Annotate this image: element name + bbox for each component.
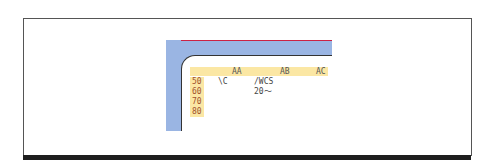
document-frame [23,18,472,156]
bottom-bar [23,155,471,160]
inner-edge-left [181,69,182,131]
cell-ab50[interactable]: /WCS [254,77,273,86]
frame-top-band [166,40,332,56]
inner-edge-top [195,55,332,56]
cell-ab60[interactable]: 20～ [254,87,272,96]
column-header-ac[interactable]: AC [316,67,326,76]
row-header-60[interactable]: 60 [192,87,202,96]
column-header-ab[interactable]: AB [280,67,290,76]
column-header-aa[interactable]: AA [232,67,242,76]
row-header-column: 50 60 70 80 [190,77,204,117]
frame-left-band [166,40,181,131]
row-header-50[interactable]: 50 [192,77,202,86]
cell-aa50[interactable]: \C [218,77,228,86]
column-header-row: AA AB AC [190,67,328,76]
row-header-70[interactable]: 70 [192,97,202,106]
row-header-80[interactable]: 80 [192,107,202,116]
